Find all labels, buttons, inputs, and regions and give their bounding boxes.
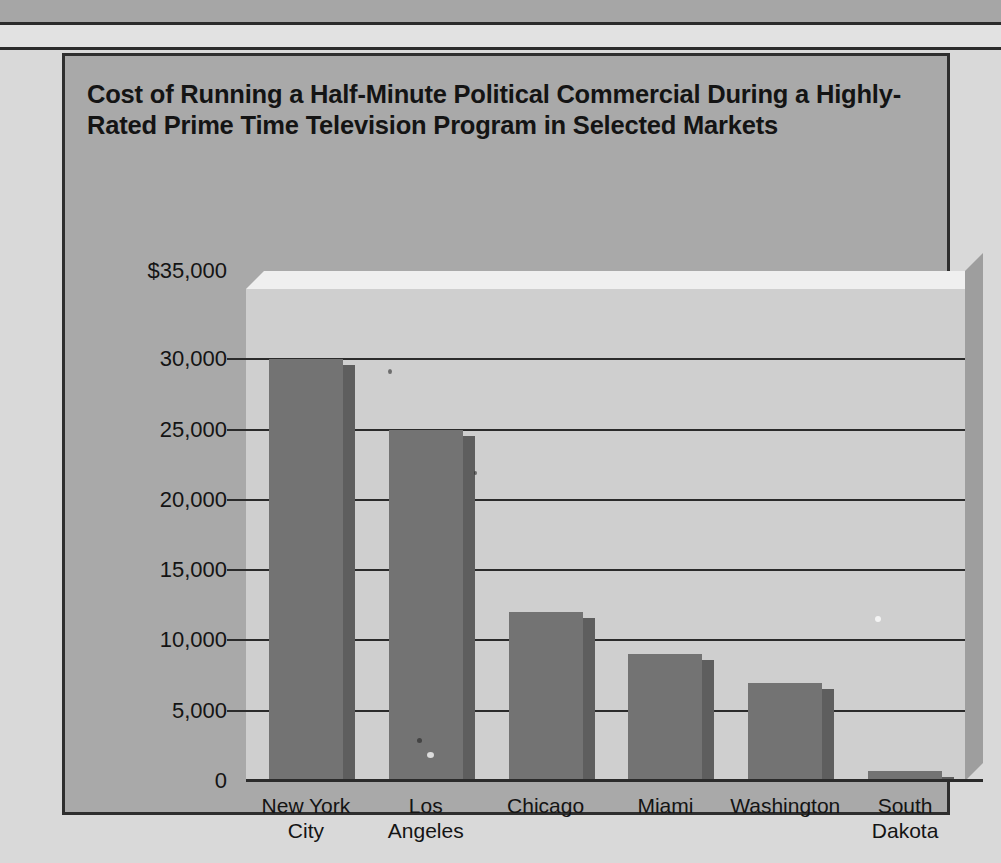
x-axis-tick-label: SouthDakota	[845, 793, 965, 843]
y-axis-tick-label: 10,000	[160, 627, 227, 653]
y-axis-tick-label: 25,000	[160, 417, 227, 443]
x-axis-tick-label-line: Miami	[606, 793, 726, 818]
chart-card: Cost of Running a Half-Minute Political …	[62, 53, 950, 815]
x-axis-baseline	[246, 779, 983, 782]
y-axis-tick-label: 0	[215, 768, 227, 794]
axis-tick	[227, 358, 246, 360]
y-axis-tick-label: $35,000	[147, 258, 227, 284]
axis-tick	[227, 429, 246, 431]
scan-speck	[417, 738, 422, 743]
x-axis-tick-label-line: South	[845, 793, 965, 818]
axis-tick	[227, 639, 246, 641]
x-axis-tick-label: LosAngeles	[366, 793, 486, 843]
x-axis-tick-label-line: Chicago	[486, 793, 606, 818]
plot-3d-top-face	[246, 271, 983, 289]
axis-tick	[227, 569, 246, 571]
bar	[269, 359, 343, 781]
gridline	[246, 358, 965, 360]
x-axis-tick-label-line: Washington	[725, 793, 845, 818]
plot-3d-right-face	[965, 253, 983, 781]
x-axis-tick-label-line: Los	[366, 793, 486, 818]
page-sheet-highlight	[0, 25, 1001, 47]
bar	[748, 683, 822, 781]
axis-tick	[227, 499, 246, 501]
x-axis-tick-label-line: New York	[246, 793, 366, 818]
x-axis-tick-label-line: City	[246, 818, 366, 843]
bar-3d-side	[702, 660, 714, 781]
x-axis-tick-label-line: Dakota	[845, 818, 965, 843]
y-axis-tick-label: 20,000	[160, 487, 227, 513]
scan-speck	[388, 369, 392, 374]
axis-tick	[227, 710, 246, 712]
y-axis-tick-label: 15,000	[160, 557, 227, 583]
bar	[509, 612, 583, 781]
bar-3d-side	[583, 618, 595, 781]
y-axis-labels: 05,00010,00015,00020,00025,00030,000$35,…	[101, 56, 227, 812]
y-axis-tick-label: 5,000	[172, 698, 227, 724]
x-axis-tick-label: Washington	[725, 793, 845, 818]
bar-3d-side	[463, 436, 475, 781]
bar-3d-side	[343, 365, 355, 781]
chart-plot: 05,00010,00015,00020,00025,00030,000$35,…	[65, 56, 947, 812]
scan-speck	[875, 616, 881, 622]
scan-speck	[474, 471, 477, 475]
bar	[389, 430, 463, 781]
bar-3d-side	[822, 689, 834, 781]
scan-speck	[427, 752, 434, 758]
x-axis-tick-label-line: Angeles	[366, 818, 486, 843]
scan-top-band	[0, 0, 1001, 22]
y-axis-tick-label: 30,000	[160, 346, 227, 372]
scanned-page: Cost of Running a Half-Minute Political …	[0, 0, 1001, 863]
x-axis-tick-label: New YorkCity	[246, 793, 366, 843]
x-axis-tick-label: Miami	[606, 793, 726, 818]
bar	[628, 654, 702, 781]
x-axis-tick-label: Chicago	[486, 793, 606, 818]
scan-rule-bottom	[0, 47, 1001, 50]
